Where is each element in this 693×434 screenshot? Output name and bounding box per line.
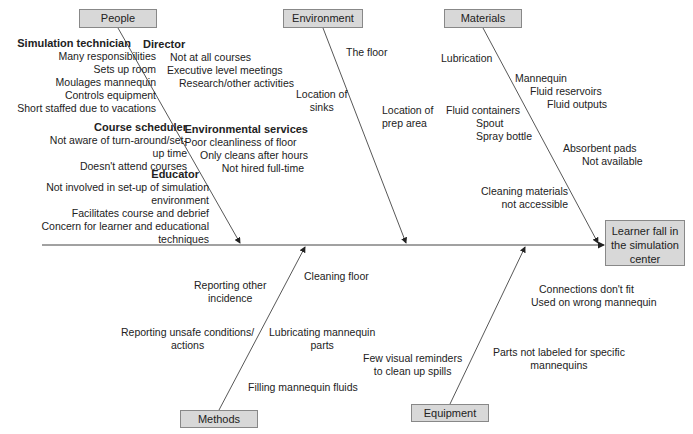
- methods-lubricating: Lubricating mannequin parts: [269, 326, 375, 352]
- group-heading: Course scheduler: [50, 121, 187, 134]
- cause-item: Not available: [563, 155, 643, 168]
- cause-item: not accessible: [481, 198, 568, 211]
- cause-item: Connections don't fit: [531, 283, 657, 296]
- equipment-connections-group: Connections don't fit Used on wrong mann…: [531, 283, 657, 309]
- cause-item: Controls equipment: [17, 89, 156, 102]
- people-educator-group: Educator Not involved in set-up of simul…: [41, 168, 209, 246]
- people-director-group: Director Not at all courses Executive le…: [143, 38, 294, 90]
- cause-item: prep area: [382, 117, 433, 130]
- environment-bone: [323, 28, 406, 243]
- cause-item: sinks: [296, 101, 347, 114]
- cause-item: Not at all courses: [143, 51, 294, 64]
- cause-item: techniques: [41, 233, 209, 246]
- effect-line: Learner fall in: [606, 224, 684, 238]
- cause-item: Not aware of turn-around/set-: [50, 134, 187, 147]
- methods-reporting-unsafe: Reporting unsafe conditions/ actions: [121, 326, 254, 352]
- environment-location-sinks: Location of sinks: [296, 88, 347, 114]
- cause-item: actions: [121, 339, 254, 352]
- cause-item: Lubricating mannequin: [269, 326, 375, 339]
- cause-item: Research/other activities: [143, 77, 294, 90]
- category-people-box: People: [79, 9, 157, 28]
- cause-item: to clean up spills: [363, 365, 462, 378]
- cause-item: Concern for learner and educational: [41, 220, 209, 233]
- cause-item: parts: [269, 339, 375, 352]
- category-methods-box: Methods: [180, 410, 258, 428]
- cause-item: Reporting other: [194, 279, 266, 292]
- effect-line: the simulation: [606, 238, 684, 252]
- cause-item: The floor: [346, 46, 387, 59]
- people-course-scheduler-group: Course scheduler Not aware of turn-aroun…: [50, 121, 187, 173]
- cause-item: Facilitates course and debrief: [41, 207, 209, 220]
- cause-item: Cleaning floor: [304, 270, 369, 283]
- cause-item: Lubrication: [441, 52, 492, 65]
- materials-absorbent-group: Absorbent pads Not available: [563, 142, 643, 168]
- cause-item: Mannequin: [515, 72, 607, 85]
- methods-reporting-other: Reporting other incidence: [194, 279, 266, 305]
- cause-item: Parts not labeled for specific: [493, 346, 625, 359]
- effect-line: center: [606, 252, 684, 266]
- people-simulation-technician-group: Simulation technician Many responsibilit…: [17, 37, 156, 115]
- cause-item: Many responsibilities: [17, 50, 156, 63]
- cause-item: mannequins: [493, 359, 625, 372]
- cause-item: environment: [41, 194, 209, 207]
- category-environment-box: Environment: [283, 9, 363, 28]
- cause-item: Location of: [382, 104, 433, 117]
- cause-item: Absorbent pads: [563, 142, 643, 155]
- cause-item: Fluid reservoirs: [515, 85, 607, 98]
- equipment-bone: [450, 247, 525, 404]
- materials-cleaning-group: Cleaning materials not accessible: [481, 185, 568, 211]
- cause-item: Fluid containers: [446, 104, 532, 117]
- cause-item: Spray bottle: [446, 130, 532, 143]
- cause-item: Few visual reminders: [363, 352, 462, 365]
- cause-item: Used on wrong mannequin: [531, 296, 657, 309]
- cause-item: Location of: [296, 88, 347, 101]
- group-heading: Director: [143, 38, 294, 51]
- materials-fluid-containers-group: Fluid containers Spout Spray bottle: [446, 104, 532, 143]
- cause-item: Sets up room: [17, 63, 156, 76]
- environment-location-prep: Location of prep area: [382, 104, 433, 130]
- group-heading: Environmental services: [184, 123, 308, 136]
- equipment-parts-not-labeled: Parts not labeled for specific mannequin…: [493, 346, 625, 372]
- cause-item: Cleaning materials: [481, 185, 568, 198]
- cause-item: Executive level meetings: [143, 64, 294, 77]
- equipment-visual-reminders: Few visual reminders to clean up spills: [363, 352, 462, 378]
- cause-item: up time: [50, 147, 187, 160]
- cause-item: Spout: [446, 117, 532, 130]
- cause-item: Reporting unsafe conditions/: [121, 326, 254, 339]
- cause-item: Moulages mannequin: [17, 76, 156, 89]
- cause-item: Short staffed due to vacations: [17, 102, 156, 115]
- cause-item: Only cleans after hours: [184, 149, 308, 162]
- category-equipment-box: Equipment: [411, 404, 489, 422]
- cause-item: Not involved in set-up of simulation: [41, 181, 209, 194]
- group-heading: Simulation technician: [17, 37, 156, 50]
- category-materials-box: Materials: [444, 9, 522, 28]
- cause-item: Filling mannequin fluids: [248, 381, 358, 394]
- cause-item: Poor cleanliness of floor: [184, 136, 308, 149]
- cause-item: incidence: [194, 292, 266, 305]
- group-heading: Educator: [41, 168, 209, 181]
- effect-box: Learner fall in the simulation center: [605, 220, 685, 266]
